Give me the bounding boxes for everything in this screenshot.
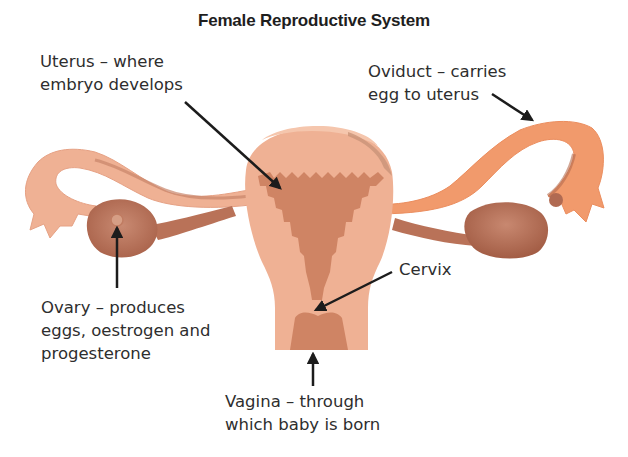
label-ovary: Ovary – produces eggs, oestrogen and pro… [41,296,210,365]
label-cervix-line1: Cervix [399,258,452,281]
label-ovary-line3: progesterone [41,342,210,365]
label-uterus-line2: embryo develops [40,73,183,96]
label-uterus-line1: Uterus – where [40,50,183,73]
label-oviduct: Oviduct – carries egg to uterus [368,60,506,106]
label-vagina-line2: which baby is born [225,413,380,436]
label-ovary-line2: eggs, oestrogen and [41,319,210,342]
label-vagina: Vagina – through which baby is born [225,390,380,436]
label-cervix: Cervix [399,258,452,281]
label-vagina-line1: Vagina – through [225,390,380,413]
label-ovary-line1: Ovary – produces [41,296,210,319]
uterus [245,126,393,350]
label-oviduct-line1: Oviduct – carries [368,60,506,83]
label-uterus: Uterus – where embryo develops [40,50,183,96]
label-oviduct-line2: egg to uterus [368,83,506,106]
left-ovary [87,199,236,257]
